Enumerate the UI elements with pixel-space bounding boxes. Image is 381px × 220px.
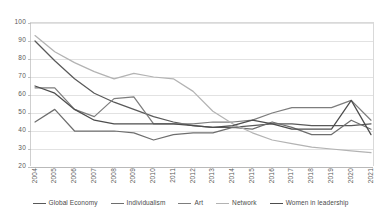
legend-swatch: [216, 203, 229, 204]
legend-label: Global Economy: [49, 200, 98, 207]
series-line: [35, 88, 371, 124]
x-axis-tick-label: 2014: [228, 168, 235, 183]
legend-item[interactable]: Network: [216, 200, 257, 207]
x-axis-tick-label: 2004: [31, 168, 38, 183]
legend-label: Art: [194, 200, 203, 207]
series-line: [35, 41, 371, 127]
y-axis-tick-label: 100: [0, 19, 26, 26]
x-axis-tick-label: 2007: [90, 168, 97, 183]
x-axis-tick-label: 2008: [110, 168, 117, 183]
x-axis-tick-label: 2020: [347, 168, 354, 183]
legend-label: Women in leadership: [286, 200, 349, 207]
y-axis-tick-label: 50: [0, 109, 26, 116]
legend-swatch: [111, 203, 124, 204]
x-axis-tick-label: 2009: [129, 168, 136, 183]
line-chart: 1009080706050403020 20042005200620072008…: [0, 0, 381, 220]
x-axis-tick-label: 2013: [208, 168, 215, 183]
y-axis-tick-label: 60: [0, 91, 26, 98]
x-axis-tick-label: 2006: [70, 168, 77, 183]
legend-label: Network: [232, 200, 257, 207]
y-axis-tick-label: 30: [0, 145, 26, 152]
x-axis-tick-label: 2015: [248, 168, 255, 183]
plot-area: [30, 22, 374, 166]
x-axis-tick-label: 2016: [268, 168, 275, 183]
legend-swatch: [270, 203, 283, 204]
legend-label: Individualism: [127, 200, 166, 207]
chart-legend: Global EconomyIndividualismArtNetworkWom…: [0, 200, 381, 207]
series-lines: [31, 23, 375, 167]
x-axis-tick-label: 2018: [307, 168, 314, 183]
x-axis-labels: 2004200520062007200820092010201120122013…: [30, 168, 374, 198]
x-axis-tick-label: 2012: [189, 168, 196, 183]
x-axis-tick-label: 2017: [287, 168, 294, 183]
y-axis-tick-label: 80: [0, 55, 26, 62]
y-axis-tick-label: 40: [0, 127, 26, 134]
legend-item[interactable]: Art: [178, 200, 203, 207]
legend-item[interactable]: Global Economy: [33, 200, 98, 207]
x-axis-tick-label: 2021: [367, 168, 374, 183]
y-axis-tick-label: 90: [0, 37, 26, 44]
legend-swatch: [178, 203, 191, 204]
series-line: [35, 86, 371, 135]
x-axis-tick-label: 2005: [50, 168, 57, 183]
legend-swatch: [33, 203, 46, 204]
x-axis-tick-label: 2011: [169, 168, 176, 183]
legend-item[interactable]: Individualism: [111, 200, 166, 207]
x-axis-tick-label: 2019: [327, 168, 334, 183]
y-axis-tick-label: 70: [0, 73, 26, 80]
y-axis-tick-label: 20: [0, 163, 26, 170]
legend-item[interactable]: Women in leadership: [270, 200, 349, 207]
x-axis-tick-label: 2010: [149, 168, 156, 183]
